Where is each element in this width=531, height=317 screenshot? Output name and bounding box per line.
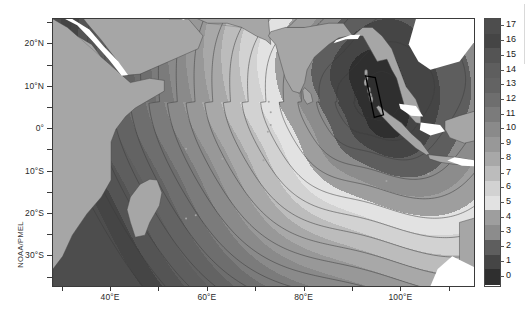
page-edge-divider: [524, 4, 525, 64]
y-axis-tick: [47, 149, 52, 150]
colorbar-swatch: [485, 107, 500, 122]
y-axis-label: 20°S: [2, 208, 44, 218]
travel-time-contour-canvas: [53, 19, 474, 286]
x-axis-tick: [62, 286, 63, 291]
colorbar-tick-label: 8: [506, 153, 511, 162]
colorbar-tick-label: 12: [506, 94, 516, 103]
colorbar-tick: [500, 217, 504, 218]
x-axis-tick: [449, 286, 450, 291]
x-axis-tick: [400, 286, 401, 291]
colorbar-swatch: [485, 196, 500, 211]
colorbar-swatch: [485, 93, 500, 108]
y-axis-tick: [47, 234, 52, 235]
colorbar-tick: [500, 202, 504, 203]
colorbar-tick: [500, 158, 504, 159]
colorbar-tick-label: 6: [506, 182, 511, 191]
colorbar-tick-label: 0: [506, 271, 511, 280]
colorbar-tick-label: 9: [506, 138, 511, 147]
colorbar-swatch: [485, 19, 500, 34]
x-axis-label: 40°E: [85, 292, 135, 302]
colorbar-tick-label: 17: [506, 20, 516, 29]
y-axis-label: 10°N: [2, 81, 44, 91]
colorbar-swatch: [485, 63, 500, 78]
y-axis-tick: [47, 128, 52, 129]
colorbar-swatch: [485, 78, 500, 93]
y-axis-tick: [47, 65, 52, 66]
colorbar-tick-label: 16: [506, 35, 516, 44]
x-axis-tick: [304, 286, 305, 291]
y-axis-label: 0°: [2, 123, 44, 133]
y-axis-tick: [47, 171, 52, 172]
colorbar-swatch: [485, 181, 500, 196]
x-axis-label: 100°E: [375, 292, 425, 302]
y-axis-tick: [47, 86, 52, 87]
colorbar-swatch: [485, 269, 500, 284]
y-axis-tick: [47, 43, 52, 44]
colorbar-tick: [500, 276, 504, 277]
colorbar-swatch: [485, 152, 500, 167]
x-axis-tick: [207, 286, 208, 291]
colorbar-tick: [500, 187, 504, 188]
colorbar-tick-label: 13: [506, 79, 516, 88]
y-axis-tick: [47, 192, 52, 193]
y-axis-label: 30°S: [2, 250, 44, 260]
colorbar-tick: [500, 231, 504, 232]
colorbar-swatch: [485, 240, 500, 255]
colorbar-tick: [500, 55, 504, 56]
colorbar-tick: [500, 114, 504, 115]
colorbar: [484, 18, 501, 287]
colorbar-swatch: [485, 122, 500, 137]
colorbar-tick: [500, 84, 504, 85]
y-axis-tick: [47, 107, 52, 108]
colorbar-tick: [500, 40, 504, 41]
colorbar-tick-label: 7: [506, 168, 511, 177]
y-axis-tick: [47, 277, 52, 278]
y-axis-label: 20°N: [2, 38, 44, 48]
y-axis-label: 10°S: [2, 166, 44, 176]
colorbar-tick: [500, 70, 504, 71]
colorbar-swatch: [485, 34, 500, 49]
colorbar-tick-label: 2: [506, 241, 511, 250]
colorbar-swatch: [485, 166, 500, 181]
x-axis-tick: [110, 286, 111, 291]
colorbar-tick-label: 4: [506, 212, 511, 221]
colorbar-swatch: [485, 137, 500, 152]
y-axis-tick: [47, 213, 52, 214]
colorbar-tick-label: 1: [506, 256, 511, 265]
y-axis-tick: [47, 255, 52, 256]
colorbar-swatch: [485, 48, 500, 63]
x-axis-tick: [158, 286, 159, 291]
colorbar-swatch: [485, 255, 500, 270]
x-axis-tick: [352, 286, 353, 291]
colorbar-tick: [500, 99, 504, 100]
x-axis-label: 80°E: [279, 292, 329, 302]
colorbar-tick: [500, 143, 504, 144]
tsunami-travel-time-figure: NOAA/PMEL 17161514131211109876543210 40°…: [0, 0, 531, 317]
y-axis-tick: [47, 22, 52, 23]
colorbar-swatch: [485, 225, 500, 240]
x-axis-label: 60°E: [182, 292, 232, 302]
colorbar-tick-label: 3: [506, 226, 511, 235]
colorbar-tick: [500, 173, 504, 174]
colorbar-tick-label: 14: [506, 65, 516, 74]
colorbar-tick-label: 5: [506, 197, 511, 206]
map-plot-area: [52, 18, 475, 287]
colorbar-tick-label: 10: [506, 123, 516, 132]
credit-label: NOAA/PMEL: [16, 213, 25, 277]
colorbar-tick: [500, 25, 504, 26]
colorbar-tick: [500, 261, 504, 262]
colorbar-tick-label: 15: [506, 50, 516, 59]
colorbar-tick: [500, 128, 504, 129]
x-axis-tick: [255, 286, 256, 291]
colorbar-tick: [500, 246, 504, 247]
colorbar-swatch: [485, 210, 500, 225]
colorbar-tick-label: 11: [506, 109, 515, 118]
